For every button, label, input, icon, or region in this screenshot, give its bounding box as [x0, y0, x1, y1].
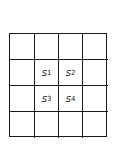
cell-r3-c4: [83, 86, 108, 112]
s1-sub: 1: [47, 69, 51, 77]
cell-r2-c1: [10, 60, 35, 86]
cell-r1-c1: [10, 34, 35, 60]
cell-r4-c1: [10, 112, 35, 138]
cell-r1-c2: [35, 34, 59, 60]
s3-sub: 3: [47, 95, 51, 103]
cell-r4-c4: [83, 112, 108, 138]
cell-r1-c4: [83, 34, 108, 60]
cell-r4-c3: [59, 112, 83, 138]
cell-r4-c2: [35, 112, 59, 138]
cell-s1: s1: [35, 60, 59, 86]
grid-4x4: s1 s2 s3 s4: [9, 33, 107, 137]
cell-s2: s2: [59, 60, 83, 86]
s4-sub: 4: [71, 95, 75, 103]
s2-sub: 2: [71, 69, 75, 77]
cell-s4: s4: [59, 86, 83, 112]
cell-s3: s3: [35, 86, 59, 112]
cell-r2-c4: [83, 60, 108, 86]
cell-r1-c3: [59, 34, 83, 60]
cell-r3-c1: [10, 86, 35, 112]
